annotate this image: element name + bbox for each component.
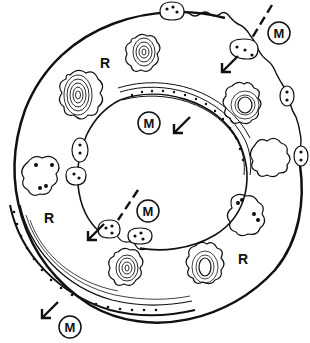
empty-follicle (250, 138, 290, 176)
marker-label: M (274, 26, 285, 41)
follicle-ring-1 (223, 82, 261, 123)
follicle-concentric-2 (126, 34, 160, 71)
outer-epithelium-cells (13, 211, 158, 312)
region-label: R (44, 210, 54, 226)
outer-ring (10, 12, 302, 323)
follicle-concentric-3 (109, 248, 143, 285)
arrow-icon (222, 56, 238, 72)
marker-labels: M M M M (59, 22, 290, 338)
arrow-icon (174, 117, 190, 133)
marker-circle: M (138, 112, 160, 134)
region-label: R (100, 55, 110, 71)
nodule-nuclei (72, 5, 302, 240)
follicle-concentric-1 (59, 70, 102, 119)
arrow-icon (42, 302, 58, 318)
follicle-ring-2 (186, 242, 224, 283)
marker-circle: M (59, 316, 81, 338)
marker-label: M (65, 320, 76, 335)
region-label: R (238, 251, 248, 267)
tissue-diagram: R R R M M M M (0, 0, 310, 343)
marker-label: M (144, 116, 155, 131)
marker-circle: M (137, 200, 159, 222)
cell-cluster-right (227, 194, 264, 235)
marker-circle: M (268, 22, 290, 44)
dashed-lines (118, 5, 272, 220)
cell-cluster-left (22, 156, 59, 195)
marker-label: M (143, 204, 154, 219)
